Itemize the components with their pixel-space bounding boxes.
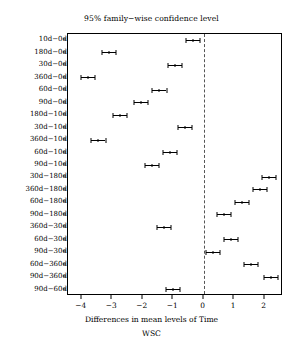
tukey-hsd-plot: 95% family−wise confidence level 10d−0d1… xyxy=(0,0,303,351)
x-axis-tick xyxy=(141,295,142,299)
x-axis: −4−3−2−1012 xyxy=(0,0,303,351)
x-axis-tick-label: −3 xyxy=(106,301,117,310)
x-axis-tick xyxy=(202,295,203,299)
x-axis-tick xyxy=(111,295,112,299)
x-axis-subtitle: WSC xyxy=(0,329,303,338)
x-axis-title: Differences in mean levels of Time xyxy=(0,315,303,324)
x-axis-tick xyxy=(80,295,81,299)
x-axis-tick xyxy=(172,295,173,299)
x-axis-tick-label: −2 xyxy=(136,301,147,310)
x-axis-tick xyxy=(263,295,264,299)
x-axis-tick-label: −1 xyxy=(167,301,178,310)
x-axis-tick-label: 2 xyxy=(261,301,266,310)
x-axis-tick-label: 0 xyxy=(200,301,205,310)
x-axis-tick-label: 1 xyxy=(231,301,236,310)
x-axis-tick-label: −4 xyxy=(75,301,86,310)
x-axis-tick xyxy=(233,295,234,299)
